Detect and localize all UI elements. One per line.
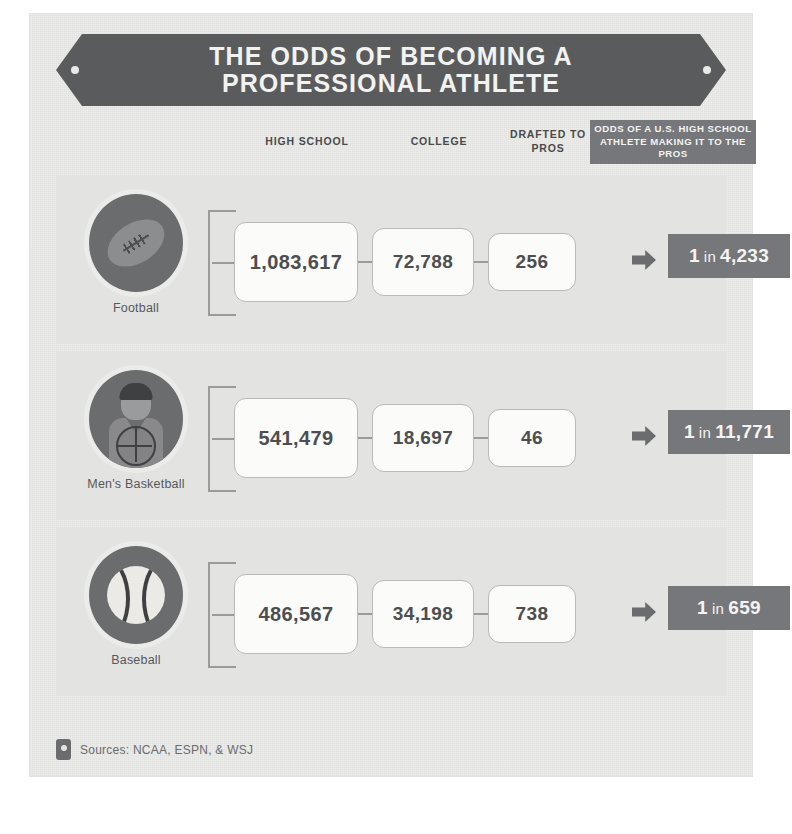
odds-join: in xyxy=(712,600,724,617)
sport-cell: Men's Basketball xyxy=(84,370,188,491)
column-header-drafted: DRAFTED TO PROS xyxy=(500,128,596,156)
infographic-canvas: THE ODDS OF BECOMING A PROFESSIONAL ATHL… xyxy=(0,0,792,834)
odds-join: in xyxy=(699,424,711,441)
odds-badge: 1 in 659 xyxy=(668,586,790,630)
footer: Sources: NCAA, ESPN, & WSJ xyxy=(56,739,253,760)
table-row: Baseball 486,567 34,198 738 1 in 659 xyxy=(56,528,726,696)
page-title-line2: PROFESSIONAL ATHLETE xyxy=(222,69,560,97)
football-icon xyxy=(89,194,183,292)
odds-badge: 1 in 11,771 xyxy=(668,410,790,454)
drafted-value: 256 xyxy=(488,233,576,291)
value-chain: 541,479 18,697 46 xyxy=(234,398,576,478)
connector-line xyxy=(474,261,488,263)
column-header-high-school: HIGH SCHOOL xyxy=(242,135,372,149)
value-chain: 486,567 34,198 738 xyxy=(234,574,576,654)
odds-value: 659 xyxy=(728,597,761,619)
sport-label: Men's Basketball xyxy=(84,477,188,491)
high-school-value: 1,083,617 xyxy=(234,222,358,302)
table-row: Football 1,083,617 72,788 256 1 in 4,233 xyxy=(56,176,726,344)
column-header-odds: ODDS OF A U.S. HIGH SCHOOL ATHLETE MAKIN… xyxy=(590,120,756,164)
ribbon-shape: THE ODDS OF BECOMING A PROFESSIONAL ATHL… xyxy=(56,34,726,106)
page-title-line1: THE ODDS OF BECOMING A xyxy=(209,42,573,70)
drafted-value: 738 xyxy=(488,585,576,643)
baseball-icon xyxy=(89,546,183,644)
connector-line xyxy=(474,437,488,439)
column-headers: HIGH SCHOOL COLLEGE DRAFTED TO PROS ODDS… xyxy=(56,118,726,176)
page-title: THE ODDS OF BECOMING A PROFESSIONAL ATHL… xyxy=(149,43,633,97)
high-school-value: 541,479 xyxy=(234,398,358,478)
ribbon-dot-left-icon xyxy=(71,66,79,74)
connector-line xyxy=(358,261,372,263)
sport-cell: Baseball xyxy=(84,546,188,667)
connector-line xyxy=(358,437,372,439)
table-row: Men's Basketball 541,479 18,697 46 1 in … xyxy=(56,352,726,520)
drafted-value: 46 xyxy=(488,409,576,467)
title-ribbon: THE ODDS OF BECOMING A PROFESSIONAL ATHL… xyxy=(56,34,726,106)
arrow-right-icon xyxy=(632,426,656,446)
connector-line xyxy=(474,613,488,615)
odds-prefix: 1 xyxy=(689,245,700,267)
college-value: 18,697 xyxy=(372,404,474,472)
college-value: 34,198 xyxy=(372,580,474,648)
bracket-connector xyxy=(208,562,236,668)
high-school-value: 486,567 xyxy=(234,574,358,654)
value-chain: 1,083,617 72,788 256 xyxy=(234,222,576,302)
sport-cell: Football xyxy=(84,194,188,315)
connector-line xyxy=(358,613,372,615)
bracket-connector xyxy=(208,386,236,492)
arrow-right-icon xyxy=(632,602,656,622)
odds-badge: 1 in 4,233 xyxy=(668,234,790,278)
odds-value: 11,771 xyxy=(715,421,774,443)
arrow-right-icon xyxy=(632,250,656,270)
sport-rows: Football 1,083,617 72,788 256 1 in 4,233 xyxy=(56,176,726,696)
document-icon xyxy=(56,739,71,760)
bracket-connector xyxy=(208,210,236,316)
basketball-player-icon xyxy=(89,370,183,468)
odds-prefix: 1 xyxy=(684,421,695,443)
odds-join: in xyxy=(704,248,716,265)
college-value: 72,788 xyxy=(372,228,474,296)
column-header-college: COLLEGE xyxy=(386,135,492,149)
sport-label: Football xyxy=(84,301,188,315)
paper-card: THE ODDS OF BECOMING A PROFESSIONAL ATHL… xyxy=(30,14,752,776)
sources-text: Sources: NCAA, ESPN, & WSJ xyxy=(80,743,253,757)
sport-label: Baseball xyxy=(84,653,188,667)
odds-prefix: 1 xyxy=(697,597,708,619)
ribbon-dot-right-icon xyxy=(703,66,711,74)
odds-value: 4,233 xyxy=(720,245,769,267)
